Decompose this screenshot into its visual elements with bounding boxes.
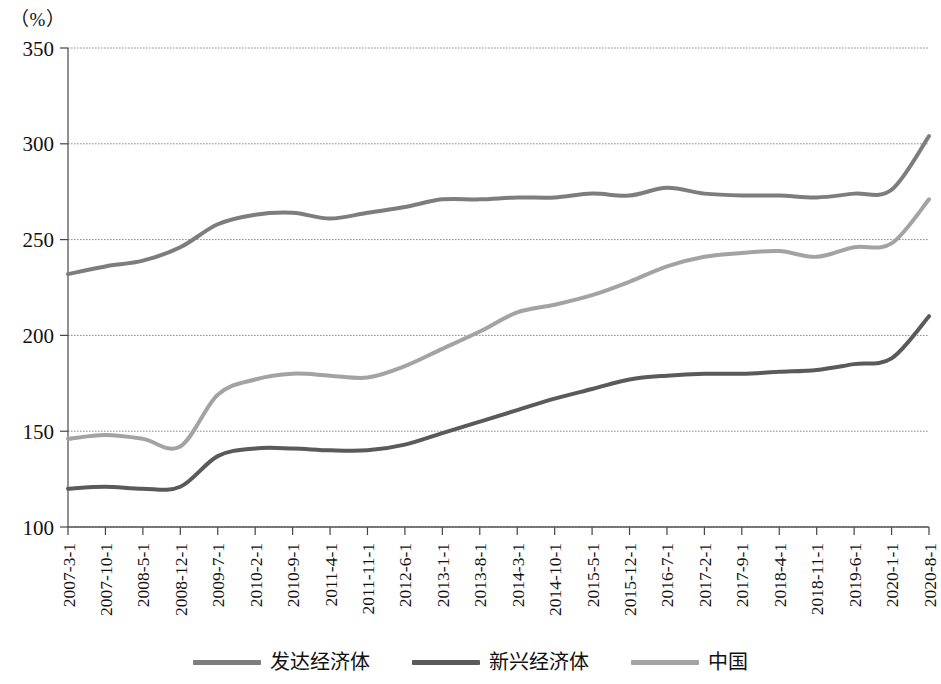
x-axis-tick-label: 2015-5-1 [583, 543, 603, 607]
x-axis-tick-label: 2016-7-1 [657, 543, 677, 607]
x-axis-tick-label: 2011-11-1 [358, 543, 378, 615]
debt-ratio-line-chart: （%） 2007-3-12007-10-12008-5-12008-12-120… [0, 0, 941, 684]
data-series-group [68, 136, 929, 490]
legend-item-emerging: 新兴经济体 [412, 652, 589, 672]
y-axis-tick-label: 350 [23, 37, 55, 61]
legend-swatch-china [631, 660, 699, 665]
chart-plot-area: 2007-3-12007-10-12008-5-12008-12-12009-7… [0, 0, 941, 650]
legend-item-developed: 发达经济体 [193, 652, 370, 672]
axis-lines-group [68, 48, 929, 527]
y-axis-tick-label: 300 [23, 132, 55, 156]
legend-label-emerging: 新兴经济体 [489, 652, 589, 672]
x-axis-tick-label: 2015-12-1 [620, 543, 640, 616]
x-axis-tick-label: 2011-4-1 [321, 543, 341, 607]
x-axis-tick-label: 2014-10-1 [545, 543, 565, 616]
x-axis-labels-group: 2007-3-12007-10-12008-5-12008-12-12009-7… [59, 543, 940, 616]
x-axis-tick-label: 2009-7-1 [208, 543, 228, 607]
x-axis-tick-label: 2017-9-1 [732, 543, 752, 607]
x-axis-tick-label: 2019-6-1 [845, 543, 865, 607]
y-axis-tick-label: 150 [23, 420, 55, 444]
legend-label-developed: 发达经济体 [270, 652, 370, 672]
x-axis-tick-label: 2012-6-1 [395, 543, 415, 607]
x-axis-tick-label: 2020-1-1 [882, 543, 902, 607]
x-axis-tick-label: 2007-3-1 [59, 543, 79, 607]
chart-legend: 发达经济体 新兴经济体 中国 [0, 652, 941, 672]
x-axis-tick-label: 2014-3-1 [508, 543, 528, 607]
x-axis-tick-label: 2017-2-1 [695, 543, 715, 607]
legend-swatch-emerging [412, 660, 480, 665]
y-axis-tick-label: 250 [23, 228, 55, 252]
y-axis-tick-label: 100 [23, 516, 55, 540]
x-axis-tick-label: 2007-10-1 [96, 543, 116, 616]
x-axis-tick-label: 2013-1-1 [433, 543, 453, 607]
x-axis-ticks-group [68, 527, 929, 535]
gridlines-group [68, 48, 929, 527]
x-axis-tick-label: 2018-11-1 [807, 543, 827, 615]
x-axis-tick-label: 2010-9-1 [283, 543, 303, 607]
y-axis-tick-label: 200 [23, 324, 55, 348]
x-axis-tick-label: 2008-12-1 [171, 543, 191, 616]
x-axis-tick-label: 2020-8-1 [920, 543, 940, 607]
series-line-新兴经济体 [68, 316, 929, 490]
legend-item-china: 中国 [631, 652, 748, 672]
y-axis-ticks-group [60, 48, 68, 527]
x-axis-tick-label: 2018-4-1 [770, 543, 790, 607]
x-axis-tick-label: 2010-2-1 [246, 543, 266, 607]
x-axis-tick-label: 2013-8-1 [470, 543, 490, 607]
x-axis-tick-label: 2008-5-1 [133, 543, 153, 607]
legend-swatch-developed [193, 660, 261, 665]
y-axis-labels-group: 100150200250300350 [23, 37, 55, 540]
legend-label-china: 中国 [708, 652, 748, 672]
